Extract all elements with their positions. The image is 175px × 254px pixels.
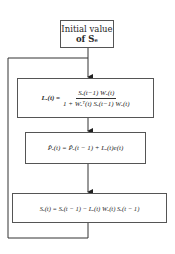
initial-value-line2: of Sₑ [76,34,98,44]
gain-lhs: Lₑ(t) = [41,94,60,102]
gain-numerator: Sₑ(t−1) Wₑ(t) [76,89,116,99]
node-initial-value: Initial value of Sₑ [60,20,114,48]
update-s-text: Sₑ(t) = Sₑ(t − 1) − Lₑ(t) Wₑ(t) Sₑ(t − 1… [40,205,140,212]
gain-fraction: Sₑ(t−1) Wₑ(t) 1 + Wₑᵀ(t) Sₑ(t−1) Wₑ(t) [63,89,130,108]
node-gain-equation: Lₑ(t) = Sₑ(t−1) Wₑ(t) 1 + Wₑᵀ(t) Sₑ(t−1)… [17,78,154,118]
node-update-s-equation: Sₑ(t) = Sₑ(t − 1) − Lₑ(t) Wₑ(t) Sₑ(t − 1… [12,193,167,223]
initial-value-line1: Initial value [61,24,112,34]
update-p-text: P̂ₑ(t) = P̂ₑ(t − 1) + Lₑ(t)e(t) [48,144,124,152]
node-update-p-equation: P̂ₑ(t) = P̂ₑ(t − 1) + Lₑ(t)e(t) [25,132,146,164]
gain-denominator: 1 + Wₑᵀ(t) Sₑ(t−1) Wₑ(t) [63,99,130,108]
